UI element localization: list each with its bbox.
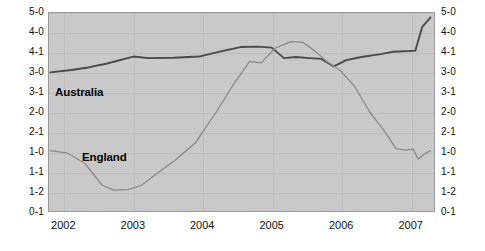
- y-tick-right-21: 2-1: [441, 127, 456, 137]
- series-label-england: England: [82, 151, 127, 163]
- x-tick-2004: 2004: [190, 219, 214, 231]
- series-line-australia: [50, 17, 430, 72]
- y-tick-left-10: 1-0: [29, 147, 44, 157]
- series-lines: [49, 13, 434, 211]
- y-tick-right-01: 0-1: [441, 207, 456, 217]
- y-tick-right-11: 1-1: [441, 167, 456, 177]
- y-tick-left-11: 1-1: [29, 167, 44, 177]
- y-tick-left-21: 2-1: [29, 127, 44, 137]
- x-tick-2005: 2005: [259, 219, 283, 231]
- line-chart: 5-04-04-13-03-12-02-11-01-11-20-1 5-04-0…: [0, 0, 485, 251]
- y-tick-right-40: 4-0: [441, 27, 456, 37]
- y-tick-right-20: 2-0: [441, 107, 456, 117]
- x-tick-2007: 2007: [398, 219, 422, 231]
- y-tick-right-10: 1-0: [441, 147, 456, 157]
- y-tick-right-41: 4-1: [441, 47, 456, 57]
- x-tick-2003: 2003: [121, 219, 145, 231]
- y-tick-right-12: 1-2: [441, 187, 456, 197]
- x-tick-2006: 2006: [329, 219, 353, 231]
- y-tick-left-50: 5-0: [29, 7, 44, 17]
- series-label-australia: Australia: [55, 86, 103, 98]
- y-tick-left-12: 1-2: [29, 187, 44, 197]
- y-tick-left-30: 3-0: [29, 67, 44, 77]
- y-tick-left-20: 2-0: [29, 107, 44, 117]
- plot-area: [48, 12, 435, 212]
- y-tick-left-40: 4-0: [29, 27, 44, 37]
- y-tick-right-50: 5-0: [441, 7, 456, 17]
- y-tick-right-30: 3-0: [441, 67, 456, 77]
- x-tick-2002: 2002: [51, 219, 75, 231]
- y-tick-left-01: 0-1: [29, 207, 44, 217]
- y-tick-left-41: 4-1: [29, 47, 44, 57]
- y-tick-right-31: 3-1: [441, 87, 456, 97]
- y-tick-left-31: 3-1: [29, 87, 44, 97]
